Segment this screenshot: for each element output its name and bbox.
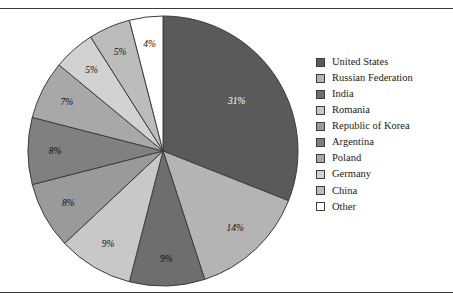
legend-item-label: Poland bbox=[332, 153, 361, 164]
legend-swatch-icon bbox=[316, 170, 325, 179]
legend-item-label: Argentina bbox=[332, 137, 374, 148]
legend-item-label: China bbox=[332, 186, 357, 197]
pie-slice-group bbox=[28, 16, 298, 286]
legend-item-label: United States bbox=[332, 57, 388, 68]
legend-item-label: Other bbox=[332, 202, 356, 213]
legend-item[interactable]: Romania bbox=[316, 102, 448, 118]
bottom-divider-rule bbox=[0, 292, 453, 293]
pie-slice-label: 14% bbox=[226, 223, 244, 233]
chart-area: 31%14%9%9%8%8%7%5%5%4% United StatesRuss… bbox=[0, 9, 453, 292]
legend-item[interactable]: United States bbox=[316, 54, 448, 70]
legend-item[interactable]: Other bbox=[316, 199, 448, 215]
legend-swatch-icon bbox=[316, 154, 325, 163]
pie-svg: 31%14%9%9%8%8%7%5%5%4% bbox=[24, 15, 302, 287]
legend-swatch-icon bbox=[316, 122, 325, 131]
legend-item-label: Germany bbox=[332, 169, 371, 180]
pie-slice-label: 4% bbox=[143, 39, 156, 49]
legend-item-label: Romania bbox=[332, 105, 370, 116]
legend-item[interactable]: Republic of Korea bbox=[316, 118, 448, 134]
legend-item[interactable]: Germany bbox=[316, 167, 448, 183]
pie-slice-label: 7% bbox=[60, 97, 73, 107]
legend-item[interactable]: China bbox=[316, 183, 448, 199]
pie-slice-label: 8% bbox=[49, 146, 62, 156]
pie-slice-label: 9% bbox=[160, 254, 173, 264]
pie-slice-label: 31% bbox=[227, 96, 246, 106]
legend-swatch-icon bbox=[316, 106, 325, 115]
pie-chart-figure: 31%14%9%9%8%8%7%5%5%4% United StatesRuss… bbox=[0, 0, 453, 302]
pie-chart: 31%14%9%9%8%8%7%5%5%4% bbox=[24, 15, 302, 287]
legend-swatch-icon bbox=[316, 90, 325, 99]
pie-slice-label: 8% bbox=[62, 198, 75, 208]
legend-swatch-icon bbox=[316, 202, 325, 211]
legend-item-label: Russian Federation bbox=[332, 73, 413, 84]
legend-item[interactable]: India bbox=[316, 86, 448, 102]
legend-swatch-icon bbox=[316, 138, 325, 147]
legend: United StatesRussian FederationIndiaRoma… bbox=[316, 54, 448, 215]
legend-item[interactable]: Russian Federation bbox=[316, 70, 448, 86]
legend-item[interactable]: Poland bbox=[316, 151, 448, 167]
pie-slice-label: 9% bbox=[102, 239, 115, 249]
pie-slice-label: 5% bbox=[114, 47, 127, 57]
legend-swatch-icon bbox=[316, 74, 325, 83]
legend-swatch-icon bbox=[316, 186, 325, 195]
legend-item-label: India bbox=[332, 89, 354, 100]
legend-swatch-icon bbox=[316, 58, 325, 67]
pie-slice-label: 5% bbox=[85, 65, 98, 75]
legend-item[interactable]: Argentina bbox=[316, 134, 448, 150]
legend-item-label: Republic of Korea bbox=[332, 121, 410, 132]
